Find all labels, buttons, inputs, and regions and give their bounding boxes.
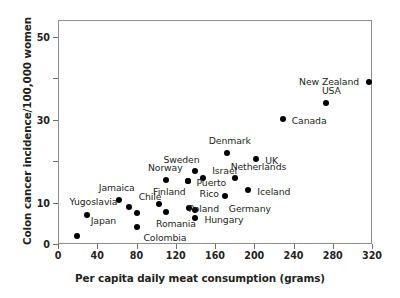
data-point [134, 210, 140, 216]
data-point [323, 100, 329, 106]
x-tick-label: 40 [91, 250, 104, 261]
x-tick [254, 244, 255, 249]
x-tick [333, 244, 334, 249]
scatter-chart: JapanYugoslaviaJamaicaChileColombiaFinla… [0, 0, 400, 298]
x-tick-label: 0 [55, 250, 62, 261]
data-point [163, 209, 169, 215]
data-point-label: New Zealand [299, 77, 359, 86]
data-point-label: USA [322, 86, 341, 95]
data-point [280, 116, 286, 122]
data-point-label: Jamaica [99, 183, 135, 192]
data-point [84, 212, 90, 218]
x-tick [58, 244, 59, 249]
data-point [192, 168, 198, 174]
data-point-label: Finland [153, 187, 186, 196]
x-tick-label: 80 [130, 250, 143, 261]
y-tick [53, 37, 58, 38]
y-tick-label: 50 [32, 31, 50, 42]
data-point-label: Hungary [204, 215, 243, 224]
x-tick [215, 244, 216, 249]
x-tick-label: 280 [323, 250, 343, 261]
y-tick [53, 78, 58, 79]
y-tick [53, 120, 58, 121]
data-point-label: Iceland [257, 187, 290, 196]
data-point-label: Colombia [143, 233, 186, 242]
x-tick-label: 200 [244, 250, 264, 261]
data-point [126, 204, 132, 210]
x-tick-label: 120 [166, 250, 186, 261]
y-tick [53, 203, 58, 204]
data-point [224, 150, 230, 156]
x-tick [97, 244, 98, 249]
y-tick-label: 0 [32, 239, 50, 250]
data-point-label: Yugoslavia [69, 197, 117, 206]
y-tick [53, 244, 58, 245]
y-tick-label: 10 [32, 197, 50, 208]
data-point-label: UK [265, 156, 278, 165]
data-point [366, 79, 372, 85]
data-point-label: Sweden [163, 155, 199, 164]
x-tick-label: 240 [283, 250, 303, 261]
x-tick [294, 244, 295, 249]
data-point [222, 193, 228, 199]
data-point-label: Romania [156, 219, 196, 228]
data-point [245, 187, 251, 193]
x-tick [137, 244, 138, 249]
x-tick-label: 320 [362, 250, 382, 261]
data-point-label: Japan [91, 216, 116, 225]
data-point [163, 177, 169, 183]
y-tick-label: 30 [32, 114, 50, 125]
data-point-label: Denmark [209, 136, 251, 145]
data-point-label: Canada [292, 116, 327, 125]
data-point [74, 233, 80, 239]
y-tick [53, 161, 58, 162]
data-point-label: Rico [200, 189, 219, 198]
data-point-label: Poland [189, 204, 219, 213]
x-tick [176, 244, 177, 249]
data-point [134, 224, 140, 230]
data-point [185, 178, 191, 184]
x-axis-label: Per capita daily meat consumption (grams… [0, 272, 400, 284]
data-point-label: Puerto [197, 178, 227, 187]
data-point-label: Germany [229, 204, 271, 213]
y-axis-label: Colon cancer incidence/100,000 women [21, 8, 33, 254]
x-tick-label: 160 [205, 250, 225, 261]
x-tick [372, 244, 373, 249]
